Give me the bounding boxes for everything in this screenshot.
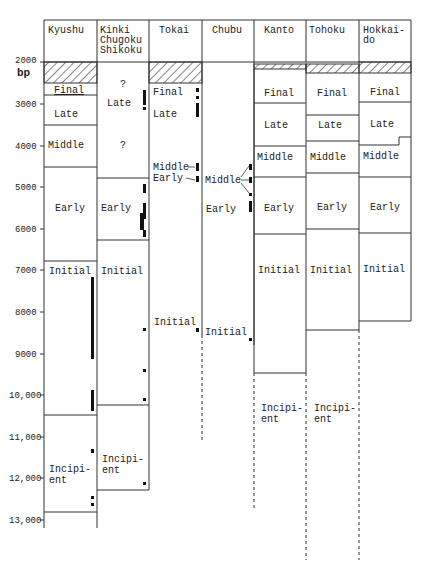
kinki-question-1: ? (120, 79, 126, 90)
tick-5000: 5000 (15, 183, 37, 193)
axis-unit-bp: bp (17, 67, 31, 79)
tick-4000: 4000 (15, 142, 37, 152)
kanto-early: Early (264, 203, 294, 214)
tick-6000: 6000 (15, 225, 37, 235)
tick-2000: 2000 (15, 56, 37, 66)
kanto-late: Late (264, 120, 288, 131)
header-shikoku: Shikoku (100, 45, 142, 56)
tick-3000: 3000 (15, 100, 37, 110)
labels-hokkaido: Final Late Middle Early Initial (363, 87, 405, 275)
column-kyushu (44, 62, 97, 528)
labels-tokai: Final Late Middle Early Initial (153, 87, 196, 328)
tohoku-early: Early (317, 202, 347, 213)
header-tohoku: Tohoku (309, 25, 345, 36)
kyushu-initial: Initial (49, 266, 91, 277)
tohoku-late: Late (318, 120, 342, 131)
column-hokkaido (359, 62, 411, 321)
kyushu-incipient-1: Incipi- (49, 464, 91, 475)
tokai-early: Early (153, 173, 183, 184)
dated-bars (91, 88, 252, 506)
kanto-incipient-2: ent (261, 414, 279, 425)
tick-8000: 8000 (15, 308, 37, 318)
kyushu-incipient-2: ent (49, 475, 67, 486)
header-kyushu: Kyushu (48, 25, 84, 36)
tohoku-final: Final (317, 88, 347, 99)
kyushu-early: Early (55, 203, 85, 214)
tick-10000: 10,000 (9, 391, 41, 401)
kinki-initial: Initial (101, 266, 143, 277)
kinki-question-2: ? (120, 140, 126, 151)
labels-kanto: Final Late Middle Early Initial Incipi- … (257, 88, 303, 425)
hokkaido-late: Late (370, 119, 394, 130)
header-chubu: Chubu (212, 25, 242, 36)
kanto-middle: Middle (257, 152, 293, 163)
tick-11000: 11,000 (9, 433, 41, 443)
kinki-late: Late (107, 98, 131, 109)
y-axis: 2000 bp 3000 4000 5000 6000 7000 8000 90… (9, 56, 44, 526)
tohoku-initial: Initial (310, 265, 352, 276)
header-hokkaido-2: do (363, 35, 375, 46)
tohoku-incipient-1: Incipi- (314, 403, 356, 414)
tick-7000: 7000 (15, 266, 37, 276)
header-labels: Kyushu Kinki Chugoku Shikoku Tokai Chubu… (48, 25, 405, 56)
chubu-initial: Initial (205, 327, 247, 338)
hokkaido-initial: Initial (363, 264, 405, 275)
kyushu-middle: Middle (48, 140, 84, 151)
header-tokai: Tokai (159, 25, 189, 36)
hatched-bands (44, 62, 411, 83)
tick-13000: 13,000 (9, 516, 41, 526)
tokai-middle: Middle (153, 162, 189, 173)
tokai-initial: Initial (154, 317, 196, 328)
column-tohoku (306, 73, 359, 560)
kinki-incipient-1: Incipi- (102, 454, 144, 465)
jomon-chronology-diagram: Kyushu Kinki Chugoku Shikoku Tokai Chubu… (0, 0, 424, 570)
kanto-initial: Initial (258, 265, 300, 276)
kinki-incipient-2: ent (102, 465, 120, 476)
tohoku-incipient-2: ent (314, 414, 332, 425)
kanto-incipient-1: Incipi- (261, 403, 303, 414)
tokai-late: Late (153, 109, 177, 120)
tick-9000: 9000 (15, 350, 37, 360)
header-kanto: Kanto (264, 25, 294, 36)
chubu-early: Early (206, 204, 236, 215)
tohoku-middle: Middle (310, 152, 346, 163)
kanto-final: Final (264, 88, 294, 99)
chubu-middle: Middle (205, 175, 241, 186)
labels-tohoku: Final Late Middle Early Initial Incipi- … (310, 88, 356, 425)
kyushu-final: Final (54, 85, 84, 96)
kyushu-late: Late (54, 109, 78, 120)
tokai-final: Final (153, 87, 183, 98)
hokkaido-final: Final (370, 87, 400, 98)
labels-kinki: ? Late ? Early Initial Incipi- ent (101, 79, 144, 476)
tick-12000: 12,000 (9, 474, 41, 484)
kinki-early: Early (101, 203, 131, 214)
labels-kyushu: Final Late Middle Early Initial Incipi- … (48, 85, 91, 486)
hokkaido-early: Early (370, 202, 400, 213)
hokkaido-middle: Middle (363, 151, 399, 162)
labels-chubu: Middle Early Initial (205, 175, 247, 338)
